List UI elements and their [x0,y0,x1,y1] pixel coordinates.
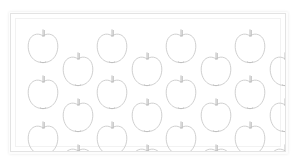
apple-icon [95,28,129,66]
apple-icon [164,28,198,66]
apple-icon [233,74,267,112]
apple-icon [268,143,286,152]
apple-outline [61,143,95,152]
apple-outline [26,120,60,152]
screenshot-canvas [0,0,297,164]
apple-outline [130,97,164,135]
apple-icon [233,120,267,152]
apple-icon [130,97,164,135]
apple-icon [61,97,95,135]
apple-outline [233,74,267,112]
apple-outline [233,28,267,66]
framed-panel [10,13,286,152]
apple-outline [61,97,95,135]
apple-outline [164,74,198,112]
apple-icon [164,120,198,152]
apple-outline [268,51,286,89]
apple-outline [233,120,267,152]
apple-icon [268,97,286,135]
apple-icon [233,28,267,66]
apple-icon [164,74,198,112]
apple-outline [268,97,286,135]
apple-outline [95,120,129,152]
apple-icon [61,51,95,89]
apple-outline [26,28,60,66]
apple-outline [164,28,198,66]
apple-icon [130,51,164,89]
apple-outline [199,51,233,89]
apple-grid [11,14,285,151]
apple-icon [95,74,129,112]
apple-icon [95,120,129,152]
apple-outline [130,51,164,89]
apple-icon [26,28,60,66]
apple-outline [268,143,286,152]
apple-icon [199,97,233,135]
apple-icon [199,143,233,152]
apple-icon [61,143,95,152]
apple-icon [26,120,60,152]
apple-icon [199,51,233,89]
apple-outline [61,51,95,89]
apple-outline [199,97,233,135]
apple-outline [95,74,129,112]
apple-icon [268,51,286,89]
apple-icon [26,74,60,112]
apple-outline [95,28,129,66]
apple-icon [130,143,164,152]
apple-outline [26,74,60,112]
apple-outline [164,120,198,152]
apple-outline [199,143,233,152]
apple-outline [130,143,164,152]
